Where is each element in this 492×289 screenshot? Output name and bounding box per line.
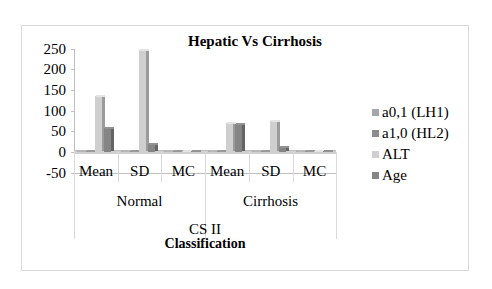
legend-item: ALT — [372, 144, 449, 165]
legend-label: ALT — [382, 146, 410, 163]
legend-swatch-icon — [372, 172, 379, 179]
legend-item: a1,0 (HL2) — [372, 123, 449, 144]
legend-swatch-icon — [372, 109, 379, 116]
y-tick-label: 0 — [22, 144, 66, 160]
bar — [148, 143, 158, 152]
chart-title: Hepatic Vs Cirrhosis — [0, 33, 492, 50]
x-category-label: SD — [118, 163, 162, 180]
y-tick-mark — [71, 90, 75, 91]
x-category-label: MC — [161, 163, 205, 180]
x-group-label: Normal — [74, 193, 205, 210]
x-category-label: Mean — [205, 163, 249, 180]
bar — [191, 150, 201, 152]
legend-swatch-icon — [372, 151, 379, 158]
legend-label: a1,0 (HL2) — [382, 125, 449, 142]
x-category-label: MC — [293, 163, 337, 180]
x-group-label: Cirrhosis — [205, 193, 336, 210]
legend-item: Age — [372, 165, 449, 186]
x-category-label: Mean — [74, 163, 118, 180]
bar — [104, 127, 114, 152]
y-tick-mark — [71, 69, 75, 70]
bar — [279, 146, 289, 152]
legend-label: Age — [382, 167, 407, 184]
bar — [323, 150, 333, 152]
x-axis-subtitle: Classification — [74, 236, 336, 252]
bar — [139, 49, 149, 152]
y-tick-mark — [71, 49, 75, 50]
bar — [235, 123, 245, 152]
y-tick-label: 50 — [22, 123, 66, 139]
y-tick-label: 100 — [22, 103, 66, 119]
legend-item: a0,1 (LH1) — [372, 102, 449, 123]
y-tick-label: 200 — [22, 61, 66, 77]
legend: a0,1 (LH1)a1,0 (HL2)ALTAge — [372, 102, 449, 186]
legend-swatch-icon — [372, 130, 379, 137]
y-tick-label: -50 — [22, 165, 66, 181]
x-category-label: SD — [249, 163, 293, 180]
legend-label: a0,1 (LH1) — [382, 104, 449, 121]
y-tick-mark — [71, 111, 75, 112]
y-tick-label: 250 — [22, 41, 66, 57]
y-tick-mark — [71, 131, 75, 132]
y-tick-label: 150 — [22, 82, 66, 98]
